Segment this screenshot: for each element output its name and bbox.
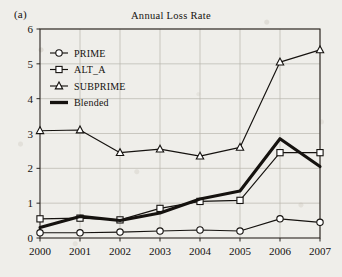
legend-item-alt_a[interactable]: ALT_A [50, 64, 106, 75]
datapoint-prime-2007 [317, 219, 323, 225]
annual-loss-rate-line-chart: 0123456 20002001200220032004200520062007… [0, 0, 342, 277]
legend-item-subprime[interactable]: SUBPRIME [50, 81, 126, 92]
datapoint-prime-2004 [197, 227, 203, 233]
x-tick-2003: 2003 [149, 245, 172, 257]
datapoint-subprime-2005 [236, 143, 243, 150]
x-tick-2006: 2006 [269, 245, 292, 257]
datapoint-prime-2006 [277, 216, 283, 222]
datapoint-subprime-2001 [76, 126, 83, 133]
x-tick-2001: 2001 [69, 245, 91, 257]
x-tick-2007: 2007 [309, 245, 332, 257]
legend-label: SUBPRIME [74, 81, 126, 92]
y-axis-tick-labels: 0123456 [28, 23, 34, 244]
datapoint-subprime-2003 [156, 145, 163, 152]
y-tick-0: 0 [28, 232, 34, 244]
y-tick-4: 4 [28, 93, 34, 105]
datapoint-alt_a-2006 [277, 150, 283, 156]
square-marker-icon [56, 66, 62, 72]
x-axis-tick-labels: 20002001200220032004200520062007 [29, 245, 332, 257]
axis-frame [37, 29, 321, 242]
circle-marker-icon [56, 50, 62, 56]
legend-label: ALT_A [74, 64, 106, 75]
y-tick-3: 3 [28, 128, 34, 140]
datapoint-prime-2005 [237, 228, 243, 234]
legend-label: PRIME [74, 48, 106, 59]
datapoint-prime-2000 [37, 230, 43, 236]
legend-item-prime[interactable]: PRIME [50, 48, 106, 59]
y-tick-2: 2 [28, 162, 34, 174]
datapoint-prime-2003 [157, 228, 163, 234]
datapoint-alt_a-2000 [37, 216, 43, 222]
chart-plot-area: 0123456 20002001200220032004200520062007… [0, 0, 342, 277]
datapoint-subprime-2007 [316, 46, 323, 53]
datapoint-prime-2001 [77, 230, 83, 236]
x-tick-2005: 2005 [229, 245, 252, 257]
y-tick-5: 5 [28, 58, 34, 70]
datapoint-alt_a-2005 [237, 197, 243, 203]
legend-label: Blended [74, 97, 109, 108]
y-tick-1: 1 [28, 197, 34, 209]
chart-legend: PRIMEALT_ASUBPRIMEBlended [50, 48, 126, 109]
datapoint-prime-2002 [117, 229, 123, 235]
y-tick-6: 6 [28, 23, 34, 35]
x-tick-2004: 2004 [189, 245, 212, 257]
datapoint-alt_a-2007 [317, 150, 323, 156]
x-tick-2002: 2002 [109, 245, 131, 257]
x-tick-2000: 2000 [29, 245, 52, 257]
